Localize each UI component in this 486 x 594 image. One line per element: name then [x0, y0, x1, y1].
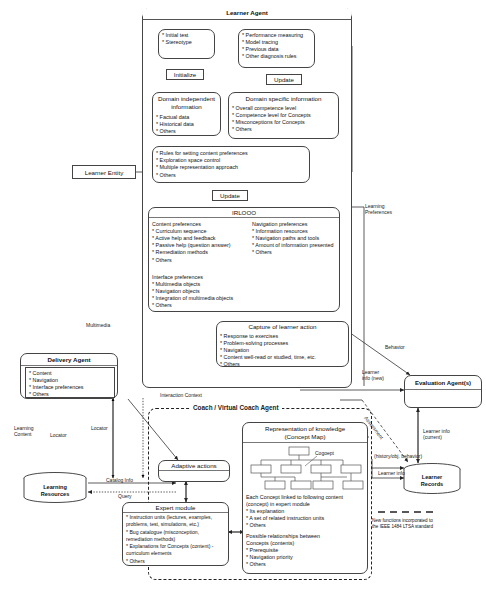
diagram-canvas: Learner Agent * Initial test * Stereotyp…: [0, 0, 486, 594]
evaluation-agent-title-rule: [405, 389, 481, 390]
expert-module-title: Expert module: [123, 503, 228, 512]
knowledge-title: Representation of knowledge (Concept Map…: [243, 423, 367, 441]
edge-label-query: Query: [118, 493, 132, 499]
interface-preferences-group: Interface preferences * Multimedia objec…: [149, 272, 274, 311]
learner-agent-title: Learner Agent: [142, 8, 352, 17]
rules-items: * Rules for setting content preferences …: [153, 147, 309, 180]
knowledge-body-2: Possible relationships between Concepts …: [243, 531, 374, 570]
domain-independent-title: Domain independent information: [153, 93, 220, 111]
expert-module-rule: [123, 512, 228, 513]
learning-resources-cylinder: Learning Resources: [22, 472, 88, 504]
concept-callout-label: Cogoept: [315, 450, 334, 456]
adaptive-actions-title: Adaptive actions: [159, 461, 229, 470]
legend-dash-sample: [376, 508, 438, 516]
edge-label-interaction-context: Interaction Context: [160, 392, 202, 398]
concept-map-graphic: Cogoept: [247, 444, 365, 492]
edge-label-multimedia: Multimedia: [86, 322, 110, 328]
content-preferences-group: Content preferences * Curriculum sequenc…: [149, 219, 254, 265]
adaptive-actions-box: Adaptive actions: [158, 460, 230, 482]
capture-learner-action-box: Capture of learner action * Response to …: [216, 321, 349, 367]
initialize-label: Initialize: [167, 70, 203, 79]
learner-entity-box: Learner Entity: [72, 165, 136, 179]
knowledge-representation-box: Representation of knowledge (Concept Map…: [242, 422, 368, 574]
knowledge-title-rule: [243, 442, 367, 443]
adaptive-actions-rule: [159, 470, 229, 471]
edge-label-learner-info-new: Learner info (new): [362, 369, 384, 381]
update-label-1: Update: [267, 75, 301, 84]
expert-module-box: Expert module * Instruction units (lectu…: [122, 502, 229, 566]
performance-measuring-box: * Performance measuring * Model tracing …: [238, 29, 315, 68]
edge-label-catalog-info: Catalog Info: [106, 477, 133, 483]
learning-resources-label: Learning Resources: [22, 484, 88, 498]
capture-title: Capture of learner action: [217, 322, 348, 331]
edge-label-learning-content: Learning Content: [14, 425, 33, 437]
evaluation-agent-box: Evaluation Agent(s): [404, 375, 482, 408]
domain-specific-items: * Overall competence level * Competence …: [229, 103, 338, 134]
edge-label-behavior: Behavior: [385, 344, 405, 350]
learner-agent-header: Learner Agent: [142, 8, 352, 19]
irlooo-box: IRLOOO Content preferences * Curriculum …: [148, 207, 340, 312]
legend-text: New functions incorporated to the IEEE 1…: [372, 518, 484, 530]
delivery-agent-items-frame: * Content * Navigation * Interface prefe…: [25, 367, 115, 398]
coach-agent-title: Coach / Virtual Coach Agent: [190, 405, 282, 411]
learner-agent-title-rule: [142, 19, 352, 20]
domain-specific-box: Domain specific information * Overall co…: [228, 92, 339, 139]
edge-label-history-behavior: (history/obj. behavior): [374, 453, 422, 459]
rules-box: * Rules for setting content preferences …: [152, 146, 310, 183]
delivery-agent-box: Delivery Agent * Content * Navigation * …: [20, 353, 118, 399]
capture-items: * Response to exercises * Problem-solvin…: [217, 331, 348, 370]
initial-test-box: * Initial test * Stereotype: [158, 29, 215, 59]
edge-label-learner-info-current: Learner info (current): [423, 428, 450, 440]
update-box-2: Update: [212, 190, 248, 201]
irlooo-title-rule: [149, 217, 339, 218]
edge-label-learning-preferences: Learning Preferences: [365, 203, 392, 215]
irlooo-title: IRLOOO: [149, 208, 339, 217]
delivery-agent-title: Delivery Agent: [21, 354, 117, 364]
evaluation-agent-title: Evaluation Agent(s): [405, 376, 481, 387]
delivery-agent-title-rule: [21, 365, 117, 366]
domain-specific-title: Domain specific information: [229, 93, 338, 103]
update-box-1: Update: [266, 74, 302, 85]
legend: New functions incorporated to the IEEE 1…: [372, 508, 484, 530]
edge-label-locator-mid: Locator: [91, 425, 108, 431]
edge-label-locator-left: Locator: [50, 432, 67, 438]
navigation-preferences-group: Navigation preferences * Information res…: [249, 219, 346, 258]
delivery-agent-items: * Content * Navigation * Interface prefe…: [26, 368, 114, 399]
domain-independent-items: * Factual data * Historical data * Other…: [153, 111, 220, 137]
knowledge-body-1: Each Concept linked to following content…: [243, 492, 374, 531]
learner-entity-label: Learner Entity: [73, 166, 135, 177]
performance-items: * Performance measuring * Model tracing …: [239, 30, 314, 61]
initialize-box: Initialize: [166, 69, 204, 80]
update-label-2: Update: [213, 191, 247, 200]
learner-records-cylinder: Learner Records: [402, 463, 462, 495]
expert-module-items: * Instruction units (lectures, examples,…: [123, 512, 228, 566]
initial-test-items: * Initial test * Stereotype: [159, 30, 214, 47]
edge-label-learner-info: Learner info: [378, 470, 405, 476]
domain-independent-box: Domain independent information * Factual…: [152, 92, 221, 136]
learner-records-label: Learner Records: [402, 474, 462, 488]
